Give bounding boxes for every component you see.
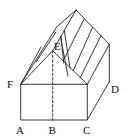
label-C: C xyxy=(83,124,90,136)
label-B: B xyxy=(49,124,56,136)
left-roof-top xyxy=(57,10,76,27)
label-D: D xyxy=(111,83,119,95)
right-eaves xyxy=(87,44,109,84)
front-gable xyxy=(21,51,88,85)
front-face-rect xyxy=(21,84,88,120)
back-roof-edge xyxy=(76,10,109,44)
stripe-3 xyxy=(80,36,101,78)
label-E: E xyxy=(54,40,61,52)
house-prism-diagram: A B C D E F xyxy=(0,0,127,138)
roof-stripe-one xyxy=(61,36,69,75)
label-A: A xyxy=(16,124,24,136)
stripe-2 xyxy=(73,27,93,71)
bottom-edge-CD xyxy=(87,82,109,120)
left-roof-outer xyxy=(21,27,57,84)
roof-stripe-1b xyxy=(61,37,69,76)
stripe-1 xyxy=(63,19,84,61)
label-F: F xyxy=(7,78,13,90)
